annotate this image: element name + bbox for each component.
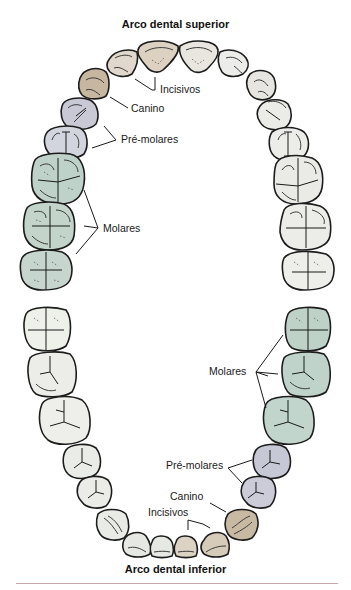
- upper-premolars-label: Pré-molares: [121, 133, 178, 145]
- lower-canine-left: [97, 510, 129, 541]
- upper-canine-left: [79, 69, 109, 99]
- lower-arch-title: Arco dental inferior: [0, 563, 351, 575]
- lower-first-premolar-left: [77, 476, 111, 508]
- lower-first-premolar-right: [241, 476, 275, 508]
- upper-molars-label: Molares: [103, 222, 140, 234]
- lower-central-incisor-left: [151, 536, 174, 558]
- upper-third-molar-left: [20, 250, 72, 290]
- lower-premolars-label: Pré-molares: [166, 459, 223, 471]
- upper-canine-label: Canino: [131, 102, 164, 114]
- lower-incisors-label: Incisivos: [148, 506, 188, 518]
- lower-second-molar-right: [282, 352, 330, 397]
- lower-second-premolar-left: [63, 444, 100, 478]
- lower-lateral-incisor-left: [123, 533, 151, 557]
- lower-central-incisor-right: [175, 536, 198, 558]
- upper-lateral-incisor-left: [107, 50, 138, 76]
- lower-molars-label: Molares: [209, 365, 246, 377]
- lower-second-molar-left: [28, 352, 76, 397]
- lower-canine-right: [225, 510, 258, 541]
- upper-arch: [20, 41, 334, 290]
- upper-central-incisor-right: [180, 41, 219, 72]
- upper-incisors-label: Incisivos: [160, 83, 200, 95]
- upper-canine-right: [247, 71, 276, 100]
- lower-first-molar-left: [40, 397, 91, 445]
- lower-lateral-incisor-right: [201, 533, 229, 557]
- lower-arch: [24, 307, 331, 557]
- upper-second-molar-right: [280, 203, 331, 250]
- upper-central-incisor-left: [138, 41, 178, 72]
- upper-second-molar-left: [24, 202, 75, 250]
- upper-first-molar-right: [274, 156, 323, 204]
- upper-first-premolar-right: [257, 100, 291, 130]
- lower-canine-label: Canino: [170, 490, 203, 502]
- lower-first-molar-right: [264, 397, 315, 445]
- upper-first-premolar-left: [61, 98, 98, 129]
- upper-third-molar-right: [282, 251, 334, 290]
- bottom-divider: [16, 583, 338, 584]
- upper-first-molar-left: [32, 153, 85, 204]
- lower-third-molar-left: [24, 307, 71, 350]
- lower-second-premolar-right: [253, 444, 290, 478]
- upper-lateral-incisor-right: [218, 50, 248, 76]
- lower-third-molar-right: [285, 307, 330, 350]
